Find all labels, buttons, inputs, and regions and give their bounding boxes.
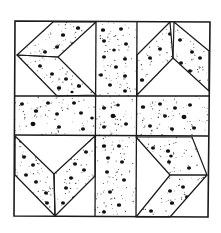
dot xyxy=(167,160,171,163)
dot xyxy=(69,176,73,179)
dot xyxy=(112,48,116,51)
dot xyxy=(148,124,152,127)
dot xyxy=(76,26,80,30)
dot xyxy=(122,178,126,181)
dot xyxy=(168,189,172,192)
dot xyxy=(84,150,88,153)
dot xyxy=(108,190,112,193)
dot xyxy=(119,27,123,30)
dot xyxy=(123,74,127,77)
dot xyxy=(124,42,128,45)
dot xyxy=(163,114,167,117)
dot xyxy=(111,114,116,118)
dot xyxy=(72,101,76,104)
dot xyxy=(43,50,47,53)
dot xyxy=(106,156,110,159)
dot xyxy=(38,64,42,67)
dot xyxy=(55,45,59,48)
dot xyxy=(99,73,103,76)
dot xyxy=(192,126,196,129)
dot xyxy=(57,86,61,90)
background xyxy=(0,0,221,233)
dot xyxy=(158,47,162,50)
dot xyxy=(34,109,38,113)
dot xyxy=(151,146,155,149)
dot xyxy=(188,103,192,106)
dot xyxy=(141,105,145,109)
dot xyxy=(64,77,68,80)
dot xyxy=(158,102,162,105)
dot xyxy=(61,33,65,37)
dot xyxy=(178,38,182,41)
dot xyxy=(57,125,61,128)
dot xyxy=(73,162,77,165)
dot xyxy=(114,65,118,68)
dot xyxy=(102,144,106,148)
dot xyxy=(102,106,106,109)
dot xyxy=(102,39,106,42)
dot xyxy=(64,186,68,189)
dot xyxy=(55,112,59,115)
dot xyxy=(105,170,109,173)
dot xyxy=(102,210,106,213)
quilt-block-illustration xyxy=(0,0,221,233)
dot xyxy=(102,55,106,58)
dot xyxy=(20,102,24,105)
dot xyxy=(123,89,127,92)
dot xyxy=(116,103,120,106)
dot xyxy=(82,168,86,171)
dot xyxy=(101,28,105,32)
dot xyxy=(181,185,185,188)
dot xyxy=(50,72,54,75)
dot xyxy=(31,122,36,126)
dot xyxy=(190,50,194,53)
dot xyxy=(148,56,152,59)
dot xyxy=(44,191,48,194)
dot xyxy=(81,127,85,130)
dot xyxy=(173,106,177,109)
dot xyxy=(90,116,94,119)
dot xyxy=(77,84,81,88)
dot xyxy=(169,154,173,157)
dot xyxy=(120,160,124,163)
dot xyxy=(31,163,35,166)
dot xyxy=(124,122,128,125)
dot xyxy=(34,180,38,183)
dot xyxy=(170,127,174,130)
dot xyxy=(46,101,50,104)
dot xyxy=(123,57,127,60)
dot xyxy=(22,155,26,158)
dot xyxy=(117,203,121,207)
dot xyxy=(198,56,202,59)
dot xyxy=(102,125,106,128)
dot xyxy=(182,115,187,119)
dot xyxy=(117,144,121,147)
dot xyxy=(61,201,65,204)
dot xyxy=(70,91,73,94)
dot xyxy=(140,78,144,82)
dot xyxy=(45,201,49,204)
dot xyxy=(149,209,153,212)
dot xyxy=(170,201,174,205)
dot xyxy=(79,111,83,114)
dot xyxy=(24,173,28,176)
dot xyxy=(187,166,191,169)
dot xyxy=(166,149,170,153)
dot xyxy=(108,83,112,86)
